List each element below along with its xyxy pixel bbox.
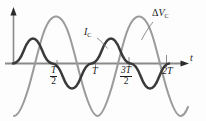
- series-label-ic: IC: [84, 27, 91, 37]
- series-label-delta-vc-symbol: V: [158, 7, 164, 18]
- capacitor-phase-figure: t T 2 T 3T 2 2T IC ΔVC: [0, 0, 206, 121]
- series-label-delta-vc-subscript: C: [165, 12, 169, 19]
- x-axis-arrowhead: [181, 60, 190, 66]
- x-tick-label-t-half: T 2: [50, 66, 57, 86]
- x-tick-label-t: T: [92, 66, 98, 76]
- x-tick-label-t-half-denominator: 2: [50, 77, 57, 87]
- x-tick-label-3t-half-denominator: 2: [120, 77, 132, 87]
- y-axis-arrowhead: [10, 7, 16, 16]
- x-axis-label: t: [190, 53, 193, 63]
- series-label-delta-vc: ΔVC: [152, 8, 169, 18]
- plot-canvas: [0, 0, 206, 121]
- series-label-ic-subscript: C: [87, 31, 91, 38]
- x-tick-label-3t-half: 3T 2: [120, 66, 132, 86]
- x-tick-label-2t: 2T: [162, 66, 173, 76]
